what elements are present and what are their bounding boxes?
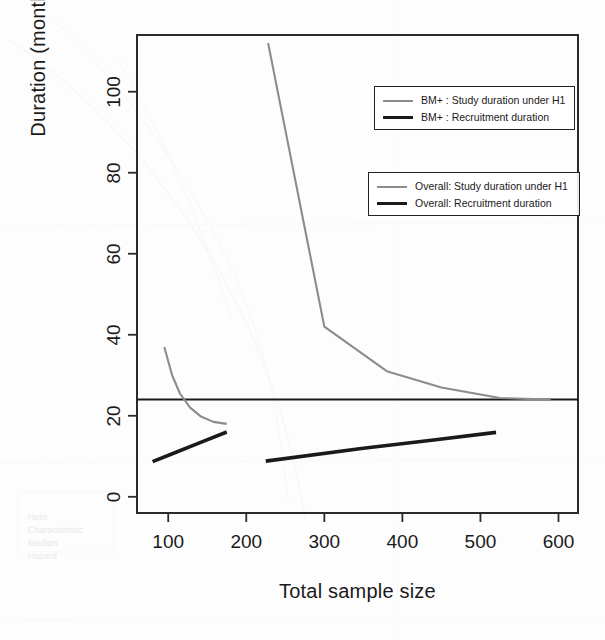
legend-label: BM+ : Study duration under H1 <box>421 95 565 106</box>
legend-swatch-gray-line-icon <box>377 186 407 188</box>
y-tick-label: 100 <box>103 62 125 122</box>
legend-entry: Overall: Recruitment duration <box>369 195 579 212</box>
y-tick-label: 80 <box>103 143 125 203</box>
y-tick-label: 20 <box>103 386 125 446</box>
legend-swatch-black-line-icon <box>377 202 407 205</box>
y-axis-title: Duration (months) <box>27 0 50 175</box>
y-tick-label: 60 <box>103 224 125 284</box>
legend-label: Overall: Recruitment duration <box>415 198 552 209</box>
x-axis-title: Total sample size <box>137 580 578 603</box>
series-line <box>153 432 227 462</box>
legend-label: Overall: Study duration under H1 <box>415 181 568 192</box>
legend-label: BM+ : Recruitment duration <box>421 112 549 123</box>
x-tick-label: 400 <box>372 531 432 553</box>
legend-entry: BM+ : Recruitment duration <box>375 109 574 126</box>
y-tick-label: 0 <box>103 467 125 527</box>
x-tick-label: 100 <box>138 531 198 553</box>
legend-entry: BM+ : Study duration under H1 <box>375 92 574 109</box>
figure-canvas: Duration (months) Total sample size 1002… <box>0 0 605 640</box>
series-line <box>164 347 226 424</box>
series-line <box>266 432 496 461</box>
legend-entry: Overall: Study duration under H1 <box>369 178 579 195</box>
x-tick-label: 500 <box>450 531 510 553</box>
y-tick-label: 40 <box>103 305 125 365</box>
bmplus-legend: BM+ : Study duration under H1BM+ : Recru… <box>374 86 575 130</box>
x-tick-label: 600 <box>528 531 588 553</box>
overall-legend: Overall: Study duration under H1Overall:… <box>368 172 580 216</box>
legend-swatch-black-line-icon <box>383 116 413 119</box>
legend-swatch-gray-line-icon <box>383 100 413 102</box>
x-tick-label: 300 <box>294 531 354 553</box>
x-tick-label: 200 <box>216 531 276 553</box>
x-axis-ticks <box>168 513 558 522</box>
